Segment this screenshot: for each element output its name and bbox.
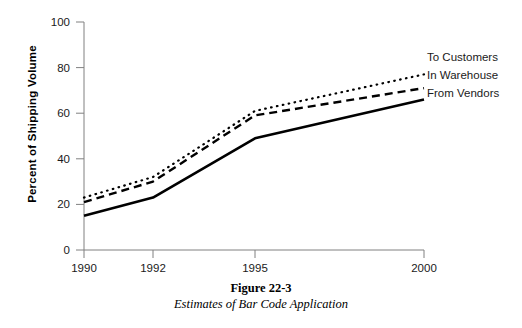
- figure-caption: Figure 22-3 Estimates of Bar Code Applic…: [0, 280, 522, 312]
- y-tick-label-100: 100: [36, 16, 70, 28]
- y-tick-label-20: 20: [36, 198, 70, 210]
- line-chart-plot: [0, 0, 522, 270]
- x-tick-label-1995: 1995: [225, 262, 285, 274]
- x-axis-ticks: [84, 250, 424, 258]
- x-tick-label-2000: 2000: [394, 262, 454, 274]
- series-line-from-vendors: [84, 100, 424, 216]
- y-tick-label-80: 80: [36, 62, 70, 74]
- series-line-to-customers: [84, 74, 424, 197]
- figure-page: Percent of Shipping Volume 0 20 40 60 80…: [0, 0, 522, 328]
- legend-label-to-customers: To Customers: [427, 51, 498, 63]
- series-line-in-warehouse: [84, 88, 424, 202]
- figure-caption-title: Figure 22-3: [0, 280, 522, 296]
- y-tick-label-40: 40: [36, 153, 70, 165]
- x-tick-label-1990: 1990: [54, 262, 114, 274]
- figure-caption-subtitle: Estimates of Bar Code Application: [0, 296, 522, 312]
- y-axis-ticks: [76, 22, 84, 250]
- x-tick-label-1992: 1992: [123, 262, 183, 274]
- y-tick-label-60: 60: [36, 107, 70, 119]
- chart-area: Percent of Shipping Volume 0 20 40 60 80…: [0, 0, 522, 270]
- y-tick-label-0: 0: [36, 244, 70, 256]
- legend-label-from-vendors: From Vendors: [427, 87, 499, 99]
- legend-label-in-warehouse: In Warehouse: [427, 69, 498, 81]
